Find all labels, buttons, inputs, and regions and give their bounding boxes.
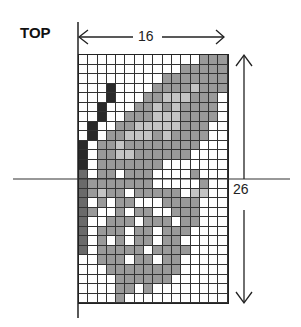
dimension-lines <box>0 0 301 327</box>
height-label: 26 <box>233 181 249 197</box>
width-label: 16 <box>135 28 157 44</box>
